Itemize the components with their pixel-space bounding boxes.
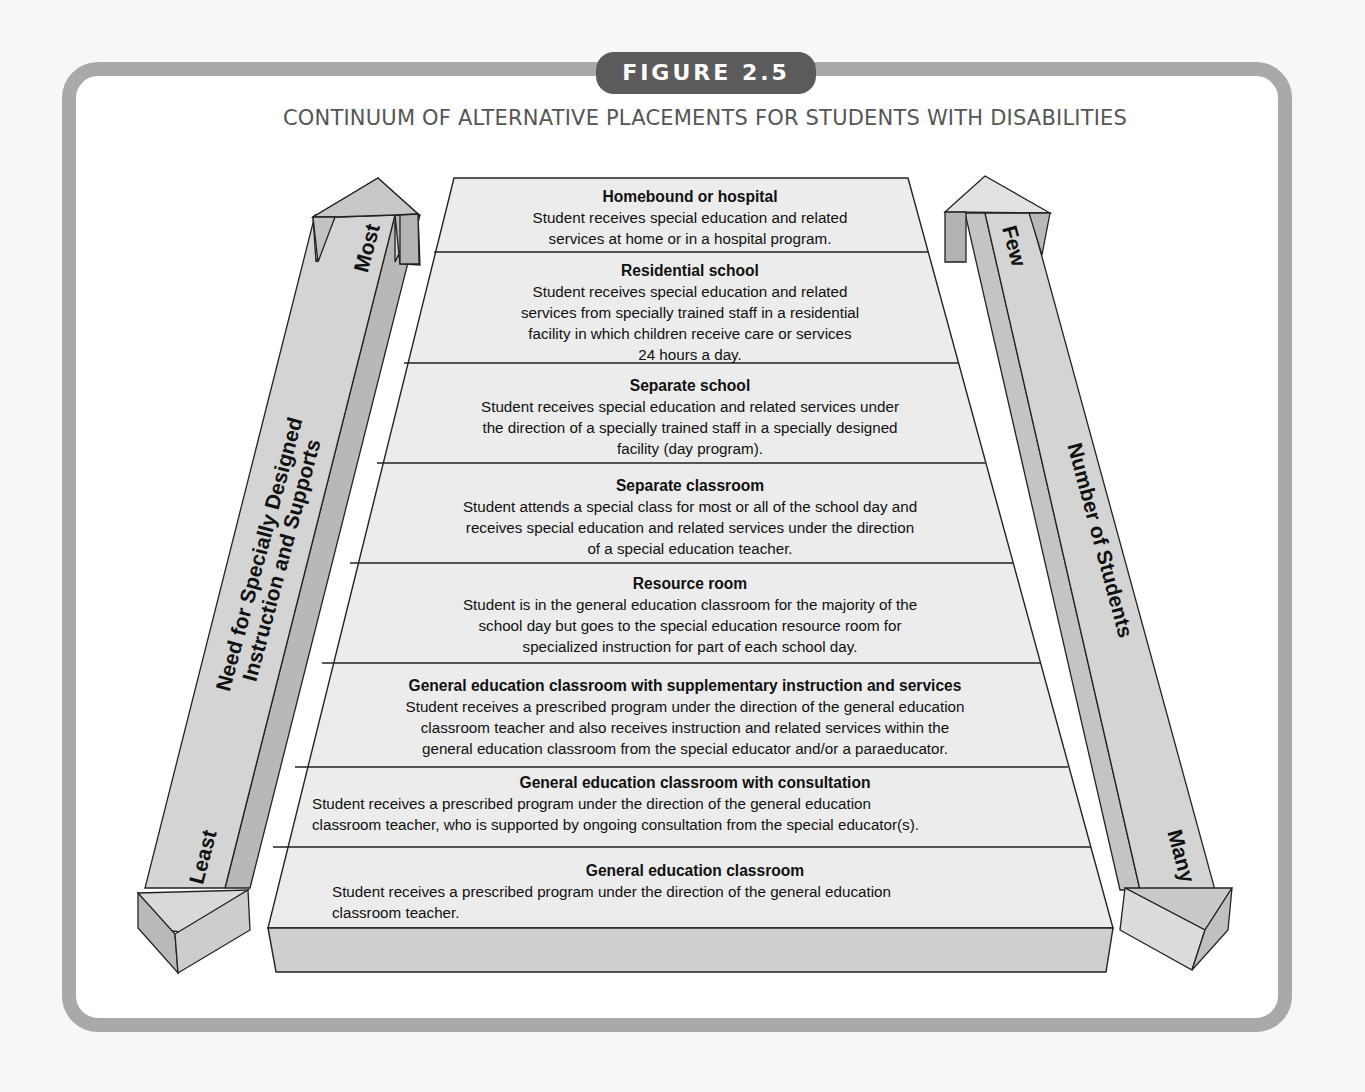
tier-separate-school: Separate school Student receives special… xyxy=(390,375,990,459)
right-arrow-head-tip xyxy=(945,176,1050,213)
tier-text: receives special education and related s… xyxy=(370,517,1010,538)
left-arrow-head-tip xyxy=(313,178,418,217)
tier-text: Student attends a special class for most… xyxy=(370,496,1010,517)
tier-text: the direction of a specially trained sta… xyxy=(390,417,990,438)
tier-text: classroom teacher and also receives inst… xyxy=(330,717,1040,738)
tier-heading: General education classroom xyxy=(300,860,1090,881)
tier-text: of a special education teacher. xyxy=(370,538,1010,559)
tier-text: services from specially trained staff in… xyxy=(420,302,960,323)
tier-heading: General education classroom with consult… xyxy=(300,772,1090,793)
tier-text: Student receives a prescribed program un… xyxy=(300,793,1090,814)
tier-heading: Separate classroom xyxy=(370,475,1010,496)
tier-text: services at home or in a hospital progra… xyxy=(440,228,940,249)
tier-separate-classroom: Separate classroom Student attends a spe… xyxy=(370,475,1010,559)
tier-text: school day but goes to the special educa… xyxy=(360,615,1020,636)
tier-text: general education classroom from the spe… xyxy=(330,738,1040,759)
tier-text: Student is in the general education clas… xyxy=(360,594,1020,615)
tier-heading: Resource room xyxy=(360,573,1020,594)
tier-text: specialized instruction for part of each… xyxy=(360,636,1020,657)
tier-text: facility in which children receive care … xyxy=(420,323,960,344)
tier-residential-school: Residential school Student receives spec… xyxy=(420,260,960,365)
tier-heading: Separate school xyxy=(390,375,990,396)
tier-text: facility (day program). xyxy=(390,438,990,459)
tier-text: classroom teacher, who is supported by o… xyxy=(300,814,1090,835)
tier-homebound-hospital: Homebound or hospital Student receives s… xyxy=(440,186,940,249)
pyramid-slab xyxy=(268,928,1113,972)
tier-text: Student receives special education and r… xyxy=(440,207,940,228)
right-arrow-head-leftblock xyxy=(945,212,966,262)
tier-heading: Residential school xyxy=(420,260,960,281)
tier-heading: General education classroom with supplem… xyxy=(330,675,1040,696)
tier-heading: Homebound or hospital xyxy=(440,186,940,207)
tier-resource-room: Resource room Student is in the general … xyxy=(360,573,1020,657)
tier-text: Student receives special education and r… xyxy=(390,396,990,417)
tier-gen-ed-supplementary: General education classroom with supplem… xyxy=(330,675,1040,759)
tier-text: Student receives a prescribed program un… xyxy=(330,696,1040,717)
tier-text: 24 hours a day. xyxy=(420,344,960,365)
left-arrow-head-rightblock xyxy=(400,214,419,264)
tier-text: Student receives special education and r… xyxy=(420,281,960,302)
tier-text: classroom teacher. xyxy=(300,902,1090,923)
tier-gen-ed-classroom: General education classroom Student rece… xyxy=(300,860,1090,923)
tier-text: Student receives a prescribed program un… xyxy=(300,881,1090,902)
tier-gen-ed-consultation: General education classroom with consult… xyxy=(300,772,1090,835)
